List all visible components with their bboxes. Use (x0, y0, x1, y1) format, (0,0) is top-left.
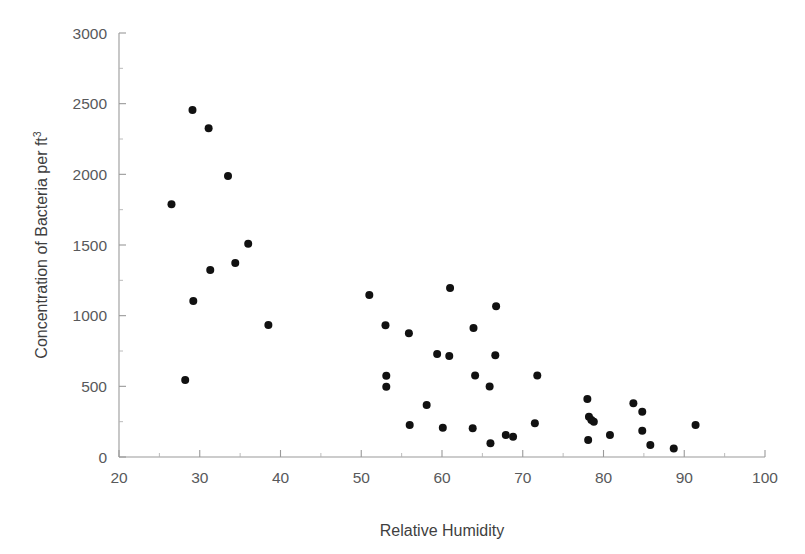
y-tick-label: 2000 (73, 166, 108, 183)
data-point (439, 424, 447, 432)
data-point (583, 395, 591, 403)
data-point (244, 240, 252, 248)
data-point (491, 351, 499, 359)
y-tick-label: 0 (98, 449, 107, 466)
x-tick-label: 60 (433, 469, 451, 486)
data-point (469, 424, 477, 432)
x-tick-label: 80 (595, 469, 613, 486)
data-point (469, 324, 477, 332)
data-point (502, 431, 510, 439)
data-point (206, 266, 214, 274)
data-point (646, 441, 654, 449)
x-tick-label: 30 (191, 469, 209, 486)
y-tick-label: 2500 (73, 95, 108, 112)
y-axis-title-text: Concentration of Bacteria per ft (33, 137, 50, 359)
data-point (531, 419, 539, 427)
data-point (486, 382, 494, 390)
x-axis-title: Relative Humidity (380, 522, 504, 539)
y-tick-label: 3000 (73, 25, 108, 42)
x-tick-label: 50 (353, 469, 371, 486)
y-tick-label: 1500 (73, 237, 108, 254)
data-point (405, 329, 413, 337)
x-tick-label: 40 (272, 469, 290, 486)
y-axis-tick-labels: 050010001500200025003000 (73, 25, 108, 466)
y-axis-title: Concentration of Bacteria per ft3 (31, 131, 50, 358)
data-point (433, 350, 441, 358)
data-point (590, 418, 598, 426)
axes (119, 33, 765, 457)
data-point (692, 421, 700, 429)
data-point (181, 376, 189, 384)
data-point (670, 444, 678, 452)
data-point (382, 372, 390, 380)
data-point (167, 200, 175, 208)
y-axis-title-group: Concentration of Bacteria per ft3 (31, 131, 50, 358)
x-tick-label: 70 (514, 469, 532, 486)
data-point (606, 431, 614, 439)
data-point (189, 297, 197, 305)
y-axis-ticks (119, 33, 126, 457)
data-point (264, 321, 272, 329)
data-point (629, 399, 637, 407)
y-tick-label: 1000 (73, 307, 108, 324)
data-point (446, 284, 454, 292)
x-tick-label: 20 (110, 469, 128, 486)
data-point (382, 383, 390, 391)
data-point (231, 259, 239, 267)
data-point (533, 372, 541, 380)
data-point (406, 421, 414, 429)
data-points (167, 106, 699, 452)
data-point (471, 372, 479, 380)
x-tick-label: 90 (676, 469, 694, 486)
y-axis-title-superscript: 3 (31, 131, 43, 137)
x-axis-ticks (119, 450, 765, 457)
x-tick-label: 100 (752, 469, 778, 486)
data-point (381, 321, 389, 329)
data-point (509, 433, 517, 441)
scatter-plot-figure: 050010001500200025003000 203040506070809… (0, 0, 805, 554)
data-point (492, 302, 500, 310)
data-point (224, 172, 232, 180)
data-point (638, 427, 646, 435)
plot-canvas: 050010001500200025003000 203040506070809… (0, 0, 805, 554)
data-point (486, 439, 494, 447)
data-point (445, 352, 453, 360)
data-point (188, 106, 196, 114)
y-tick-label: 500 (81, 378, 107, 395)
data-point (205, 124, 213, 132)
data-point (584, 436, 592, 444)
x-axis-tick-labels: 2030405060708090100 (110, 469, 778, 486)
data-point (423, 401, 431, 409)
data-point (638, 408, 646, 416)
data-point (365, 291, 373, 299)
